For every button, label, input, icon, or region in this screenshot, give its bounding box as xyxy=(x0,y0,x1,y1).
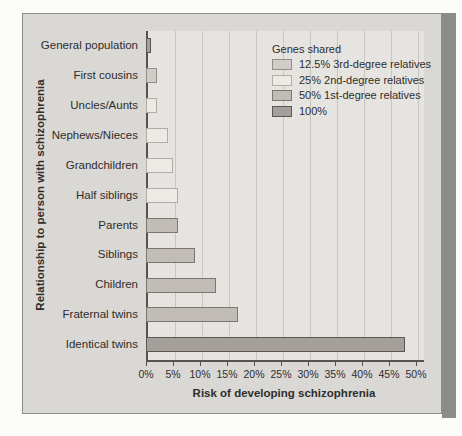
bar-general-population xyxy=(146,38,151,53)
y-axis-title: Relationship to person with schizophreni… xyxy=(34,79,46,310)
chart-row: Children xyxy=(23,270,422,300)
axis-tick xyxy=(389,362,390,366)
bar-siblings xyxy=(146,248,195,263)
axis-tick xyxy=(200,362,201,366)
axis-tick xyxy=(227,362,228,366)
chart-row: Fraternal twins xyxy=(23,300,422,330)
bar-identical-twins xyxy=(146,337,405,352)
axis-tick-label: 45% xyxy=(378,368,399,380)
axis-tick xyxy=(254,362,255,366)
axis-tick xyxy=(362,362,363,366)
axis-tick xyxy=(335,362,336,366)
bar-children xyxy=(146,278,216,293)
page-edge-strip xyxy=(442,13,456,418)
bar-parents xyxy=(146,218,178,233)
axis-tick-label: 0% xyxy=(138,368,153,380)
chart-row: Parents xyxy=(23,210,422,240)
axis-tick-label: 20% xyxy=(243,368,264,380)
axis-tick xyxy=(416,362,417,366)
bar-half-siblings xyxy=(146,188,178,203)
axis-tick xyxy=(146,362,147,366)
axis-tick xyxy=(173,362,174,366)
bar-fraternal-twins xyxy=(146,307,238,322)
axis-tick-label: 5% xyxy=(165,368,180,380)
chart-row: Uncles/Aunts xyxy=(23,91,422,121)
axis-tick-label: 50% xyxy=(405,368,426,380)
chart-row: Siblings xyxy=(23,240,422,270)
axis-tick-label: 35% xyxy=(324,368,345,380)
figure-panel: Genes shared 12.5% 3rd-degree relatives2… xyxy=(22,13,442,414)
chart-row: First cousins xyxy=(23,61,422,91)
category-label: Identical twins xyxy=(23,339,146,351)
chart-row: Grandchildren xyxy=(23,151,422,181)
bar-uncles-aunts xyxy=(146,98,157,113)
axis-tick-label: 30% xyxy=(297,368,318,380)
bar-nephews-nieces xyxy=(146,128,168,143)
chart-row: Half siblings xyxy=(23,180,422,210)
chart-row: Nephews/Nieces xyxy=(23,121,422,151)
axis-tick-label: 40% xyxy=(351,368,372,380)
chart-row: General population xyxy=(23,31,422,61)
axis-tick xyxy=(308,362,309,366)
x-axis-title: Risk of developing schizophrenia xyxy=(146,387,422,399)
category-label: Fraternal twins xyxy=(23,309,146,321)
category-label: General population xyxy=(23,40,146,52)
chart-row: Identical twins xyxy=(23,330,422,360)
axis-tick-label: 10% xyxy=(189,368,210,380)
axis-tick-label: 25% xyxy=(270,368,291,380)
bar-grandchildren xyxy=(146,158,173,173)
axis-tick xyxy=(281,362,282,366)
bar-rows: General populationFirst cousinsUncles/Au… xyxy=(23,31,422,360)
axis-tick-label: 15% xyxy=(216,368,237,380)
bar-first-cousins xyxy=(146,68,157,83)
